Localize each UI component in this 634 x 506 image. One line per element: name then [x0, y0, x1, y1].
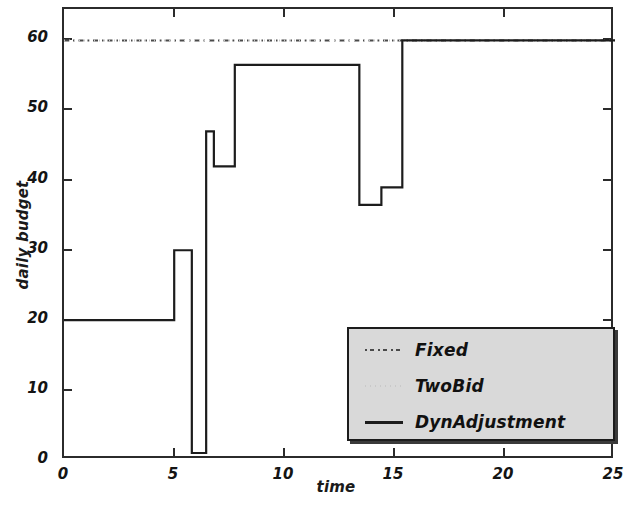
- chart-figure: daily budget time 60 50 40 30 20 10 0 0 …: [0, 0, 634, 506]
- legend-row-fixed: Fixed: [349, 333, 613, 367]
- y-tick-label-20: 20: [4, 309, 48, 327]
- dashdot-line-icon: [361, 344, 407, 356]
- y-tick-label-50: 50: [4, 98, 48, 116]
- y-tick-label-60: 60: [4, 28, 48, 46]
- x-tick-label-0: 0: [43, 465, 83, 483]
- x-tick-label-25: 25: [593, 465, 633, 483]
- x-axis-label: time: [216, 478, 456, 496]
- x-tick-label-10: 10: [263, 465, 303, 483]
- x-tick-label-20: 20: [483, 465, 523, 483]
- legend-row-dynadjustment: DynAdjustment: [349, 405, 613, 439]
- y-tick-label-30: 30: [4, 239, 48, 257]
- legend-label-twobid: TwoBid: [415, 376, 484, 396]
- y-tick-label-40: 40: [4, 169, 48, 187]
- legend-row-twobid: TwoBid: [349, 369, 613, 403]
- solid-line-icon: [361, 416, 407, 428]
- legend-label-dynadjustment: DynAdjustment: [415, 412, 565, 432]
- legend-label-fixed: Fixed: [415, 340, 468, 360]
- y-tick-label-0: 0: [4, 449, 48, 467]
- x-tick-label-15: 15: [373, 465, 413, 483]
- dotted-line-icon: [361, 380, 407, 392]
- legend: Fixed TwoBid DynAdjustment: [347, 327, 615, 441]
- y-tick-label-10: 10: [4, 379, 48, 397]
- x-tick-label-5: 5: [153, 465, 193, 483]
